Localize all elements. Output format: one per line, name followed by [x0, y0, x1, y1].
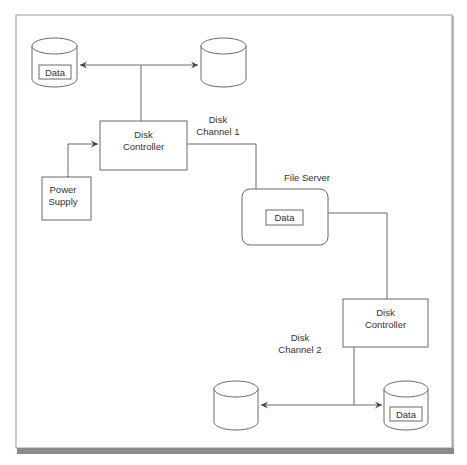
disk-top-left-label: Data	[45, 67, 66, 78]
disk-bottom-right: Data	[384, 381, 428, 430]
channel-2-line1: Disk	[291, 332, 310, 343]
disk-top-left: Data	[32, 38, 77, 87]
disk-bottom-right-label: Data	[396, 409, 417, 420]
controller-1-line1: Disk	[134, 129, 153, 140]
file-server-title: File Server	[284, 172, 330, 183]
power-supply: Power Supply	[42, 177, 91, 220]
diagram-canvas: Data Disk Controller Disk Channel 1 Powe…	[0, 0, 467, 465]
disk-controller-1: Disk Controller	[100, 121, 187, 170]
file-server-data-label: Data	[274, 212, 295, 223]
power-supply-line2: Supply	[48, 196, 77, 207]
frame-bottom-shadow	[17, 448, 454, 454]
controller-1-line2: Controller	[123, 141, 164, 152]
channel-1-line1: Disk	[209, 114, 228, 125]
disk-controller-2: Disk Controller	[343, 299, 428, 347]
power-supply-line1: Power	[50, 184, 77, 195]
disk-top-right	[201, 38, 246, 87]
controller-2-line1: Disk	[376, 307, 395, 318]
disk-bottom-left	[214, 381, 258, 430]
channel-1-line2: Channel 1	[196, 126, 239, 137]
channel-2-line2: Channel 2	[278, 344, 321, 355]
controller-2-line2: Controller	[365, 319, 406, 330]
